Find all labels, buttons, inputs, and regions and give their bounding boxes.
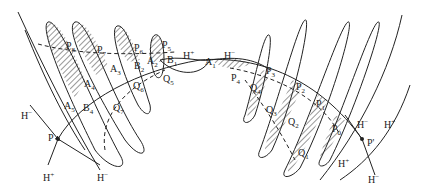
label-P8: P8 — [66, 41, 75, 54]
label-H-minus-bottom-left: H− — [97, 172, 108, 183]
label-H-minus-bottom-right: H− — [368, 174, 379, 185]
label-Q4: Q4 — [250, 83, 261, 96]
label-P6: P6 — [134, 43, 143, 56]
label-Q7: Q7 — [113, 103, 124, 116]
label-P7: P7 — [97, 45, 106, 58]
label-A5: A5 — [64, 101, 75, 114]
label-A3: A3 — [110, 64, 121, 77]
label-A2: A2 — [147, 56, 158, 69]
label-P-prime: P' — [367, 138, 374, 148]
label-P3: P3 — [266, 66, 275, 79]
label-P1: P1 — [316, 99, 325, 112]
hatched-region-right-4 — [320, 115, 345, 160]
label-Q6: Q6 — [133, 81, 144, 94]
fixed-point-P-prime — [360, 137, 364, 141]
label-A4: A4 — [84, 79, 95, 92]
label-B1: B1 — [167, 55, 177, 68]
label-P5: P5 — [162, 40, 171, 53]
label-Q1: Q1 — [298, 148, 309, 161]
label-P0: P0 — [332, 124, 341, 137]
label-Q2: Q2 — [288, 117, 299, 130]
label-H-minus-top: H− — [224, 50, 235, 61]
label-H-plus-top: H+ — [183, 50, 194, 61]
label-H-plus-bottom-left: H+ — [43, 172, 54, 183]
homoclinic-tangle-diagram: P8 P7 P6 P5 B1 H+ A1 H− A2 B2 A3 A4 Q6 Q… — [0, 0, 421, 194]
fixed-point-P — [56, 137, 60, 141]
label-Q5: Q5 — [163, 74, 174, 87]
label-Q3: Q3 — [266, 105, 277, 118]
label-H-plus-right: H+ — [384, 119, 395, 130]
label-H-plus-bottom-right: H+ — [338, 158, 349, 169]
label-H-minus-right: H− — [357, 119, 368, 130]
diagram-canvas — [0, 0, 421, 194]
label-H-minus-left: H− — [21, 110, 32, 121]
label-B4: B4 — [83, 103, 93, 116]
label-P2: P2 — [296, 82, 305, 95]
label-P4: P4 — [231, 73, 240, 86]
label-P: P — [48, 133, 54, 143]
label-A1: A1 — [205, 57, 216, 70]
label-B2: B2 — [134, 61, 144, 74]
